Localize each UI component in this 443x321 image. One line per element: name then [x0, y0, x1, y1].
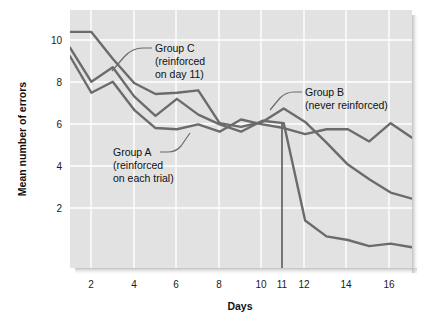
annotation-group-b-line-1: Group B	[305, 86, 344, 98]
x-tick-labels: 2 4 6 8 10 11 12 14 16	[88, 279, 395, 290]
y-tick-label: 8	[56, 77, 62, 88]
y-tick-labels: 10 8 6 4 2	[51, 35, 63, 214]
annotation-group-c-line-1: Group C	[155, 42, 195, 54]
x-tick-label-day-11: 11	[277, 279, 288, 290]
line-chart-svg: 10 8 6 4 2 2 4 6 8 10 11 12 14 16 Days M…	[0, 0, 443, 321]
plot-shadow-right	[412, 15, 419, 273]
annotation-group-c-line-3: on day 11)	[155, 68, 204, 80]
annotation-group-b-line-2: (never reinforced)	[305, 99, 388, 111]
y-tick-label: 2	[56, 203, 62, 214]
x-tick-label: 8	[216, 279, 222, 290]
x-axis-title: Days	[227, 300, 252, 312]
plot-area-background	[70, 10, 412, 268]
x-tick-label: 16	[383, 279, 395, 290]
annotation-group-a-line-3: on each trial)	[113, 172, 174, 184]
annotation-group-a-line-1: Group A	[113, 146, 152, 158]
annotation-group-c-line-2: (reinforced	[155, 55, 205, 67]
x-tick-label: 4	[131, 279, 137, 290]
annotation-group-a-line-2: (reinforced	[113, 159, 163, 171]
y-tick-label: 10	[51, 35, 63, 46]
x-tick-label: 6	[173, 279, 179, 290]
y-tick-label: 4	[56, 161, 62, 172]
x-tick-label: 12	[298, 279, 310, 290]
x-tick-label: 14	[340, 279, 352, 290]
x-tick-label: 10	[255, 279, 267, 290]
y-tick-label: 6	[56, 119, 62, 130]
x-tick-label: 2	[88, 279, 94, 290]
chart-figure: 10 8 6 4 2 2 4 6 8 10 11 12 14 16 Days M…	[0, 0, 443, 321]
plot-shadow-bottom	[75, 268, 417, 275]
y-axis-title: Mean number of errors	[16, 82, 28, 197]
